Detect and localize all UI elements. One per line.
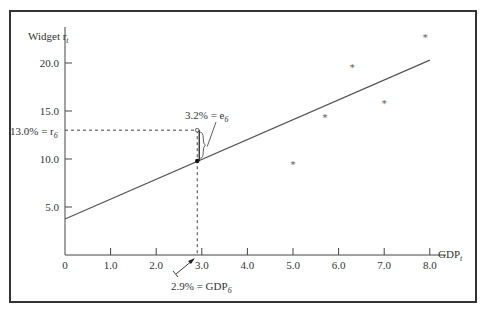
x-tick-label: 5.0	[286, 259, 300, 271]
x-tick-label: 1.0	[104, 259, 118, 271]
residual-label: 3.2% = e6	[185, 109, 229, 124]
r6-label: 13.0% = r6	[10, 125, 58, 140]
y-tick-label: 10.0	[40, 153, 60, 165]
asterisk-point: *	[350, 62, 355, 73]
asterisk-point: *	[423, 32, 428, 43]
residual-brace	[200, 132, 205, 158]
x-tick-label: 0	[62, 259, 68, 271]
asterisk-point: *	[382, 98, 387, 109]
x-tick-label: 3.0	[195, 259, 209, 271]
x-tick-label: 4.0	[241, 259, 255, 271]
regression-line-path	[65, 60, 430, 219]
x-tick-label: 6.0	[332, 259, 346, 271]
x-tick-label: 7.0	[377, 259, 391, 271]
y-tick-label: 15.0	[40, 105, 60, 117]
residual-callout-line	[207, 122, 216, 147]
axes: Widget rtGDPt	[28, 27, 463, 263]
y-axis-label: Widget rt	[28, 30, 69, 45]
x-tick-label: 8.0	[423, 259, 437, 271]
gdp6-arrow-tail	[173, 271, 178, 277]
y-tick-label: 5.0	[45, 201, 59, 213]
asterisk-point: *	[322, 112, 327, 123]
gdp6-label: 2.9% = GDP6	[171, 280, 232, 295]
regression-line	[65, 60, 430, 219]
asterisk-point: *	[291, 159, 296, 170]
axis-ticks: 01.02.03.04.05.06.07.08.05.010.015.020.0	[40, 57, 437, 271]
regression-chart: Widget rtGDPt 01.02.03.04.05.06.07.08.05…	[0, 0, 484, 313]
x-tick-label: 2.0	[149, 259, 163, 271]
y-tick-label: 20.0	[40, 57, 60, 69]
x-axis-label: GDPt	[438, 248, 463, 263]
actual-point	[195, 128, 199, 132]
guide-lines	[65, 130, 197, 255]
data-points: *****	[195, 32, 428, 170]
